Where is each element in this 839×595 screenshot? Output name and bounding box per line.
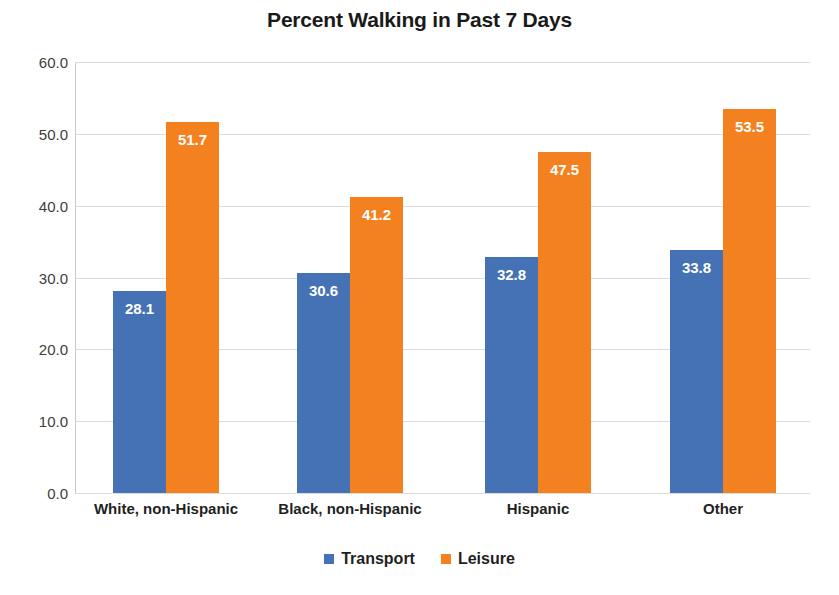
legend-swatch-icon xyxy=(324,554,334,564)
x-axis-category-label: Other xyxy=(703,500,743,517)
x-axis-category-labels: White, non-HispanicBlack, non-HispanicHi… xyxy=(75,500,810,530)
bar-leisure-1: 41.2 xyxy=(350,197,403,493)
bar-value-label: 47.5 xyxy=(538,161,591,178)
legend-label: Transport xyxy=(341,550,415,568)
bar-value-label: 41.2 xyxy=(350,206,403,223)
gridline xyxy=(75,493,810,494)
x-axis-category-label: Hispanic xyxy=(507,500,570,517)
y-axis-tick-label: 10.0 xyxy=(4,413,68,430)
chart-title: Percent Walking in Past 7 Days xyxy=(0,8,839,32)
plot-area: 28.151.730.641.232.847.533.853.5 xyxy=(75,62,810,493)
legend-label: Leisure xyxy=(458,550,515,568)
x-axis-category-label: Black, non-Hispanic xyxy=(278,500,421,517)
bar-leisure-0: 51.7 xyxy=(166,122,219,493)
bar-transport-2: 32.8 xyxy=(485,257,538,493)
bar-value-label: 28.1 xyxy=(113,300,166,317)
bar-value-label: 53.5 xyxy=(723,118,776,135)
x-axis-category-label: White, non-Hispanic xyxy=(94,500,238,517)
y-axis-tick-labels: 60.050.040.030.020.010.00.0 xyxy=(0,62,68,493)
bar-value-label: 51.7 xyxy=(166,131,219,148)
bar-transport-3: 33.8 xyxy=(670,250,723,493)
y-axis-tick-label: 30.0 xyxy=(4,269,68,286)
bar-chart: Percent Walking in Past 7 Days 60.050.04… xyxy=(0,0,839,595)
bar-value-label: 32.8 xyxy=(485,266,538,283)
y-axis-tick-label: 40.0 xyxy=(4,197,68,214)
bar-value-label: 30.6 xyxy=(297,282,350,299)
chart-legend: TransportLeisure xyxy=(0,550,839,568)
bar-value-label: 33.8 xyxy=(670,259,723,276)
y-axis-tick-label: 50.0 xyxy=(4,125,68,142)
y-axis-tick-label: 20.0 xyxy=(4,341,68,358)
bar-transport-1: 30.6 xyxy=(297,273,350,493)
bar-leisure-2: 47.5 xyxy=(538,152,591,493)
y-axis-tick-label: 0.0 xyxy=(4,485,68,502)
y-axis-tick-label: 60.0 xyxy=(4,54,68,71)
legend-item-leisure[interactable]: Leisure xyxy=(441,550,515,568)
gridline xyxy=(75,62,810,63)
bar-transport-0: 28.1 xyxy=(113,291,166,493)
legend-swatch-icon xyxy=(441,554,451,564)
bar-leisure-3: 53.5 xyxy=(723,109,776,493)
legend-item-transport[interactable]: Transport xyxy=(324,550,415,568)
